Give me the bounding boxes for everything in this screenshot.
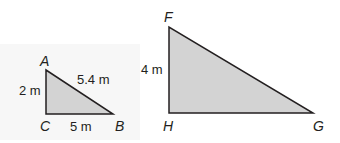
vertex-b-label: B	[115, 118, 124, 134]
vertex-c-label: C	[40, 118, 51, 134]
side-cb-length: 5 m	[70, 119, 92, 134]
triangle-fgh	[169, 27, 313, 113]
vertex-f-label: F	[164, 9, 174, 25]
side-fh-length: 4 m	[141, 62, 163, 77]
side-ab-length: 5.4 m	[77, 72, 110, 87]
vertex-a-label: A	[39, 53, 49, 69]
diagram-canvas: A C B 2 m 5 m 5.4 m F H G 4 m	[0, 0, 340, 143]
vertex-h-label: H	[163, 118, 174, 134]
vertex-g-label: G	[313, 118, 324, 134]
triangles-svg: A C B 2 m 5 m 5.4 m F H G 4 m	[0, 0, 340, 143]
side-ac-length: 2 m	[19, 83, 41, 98]
